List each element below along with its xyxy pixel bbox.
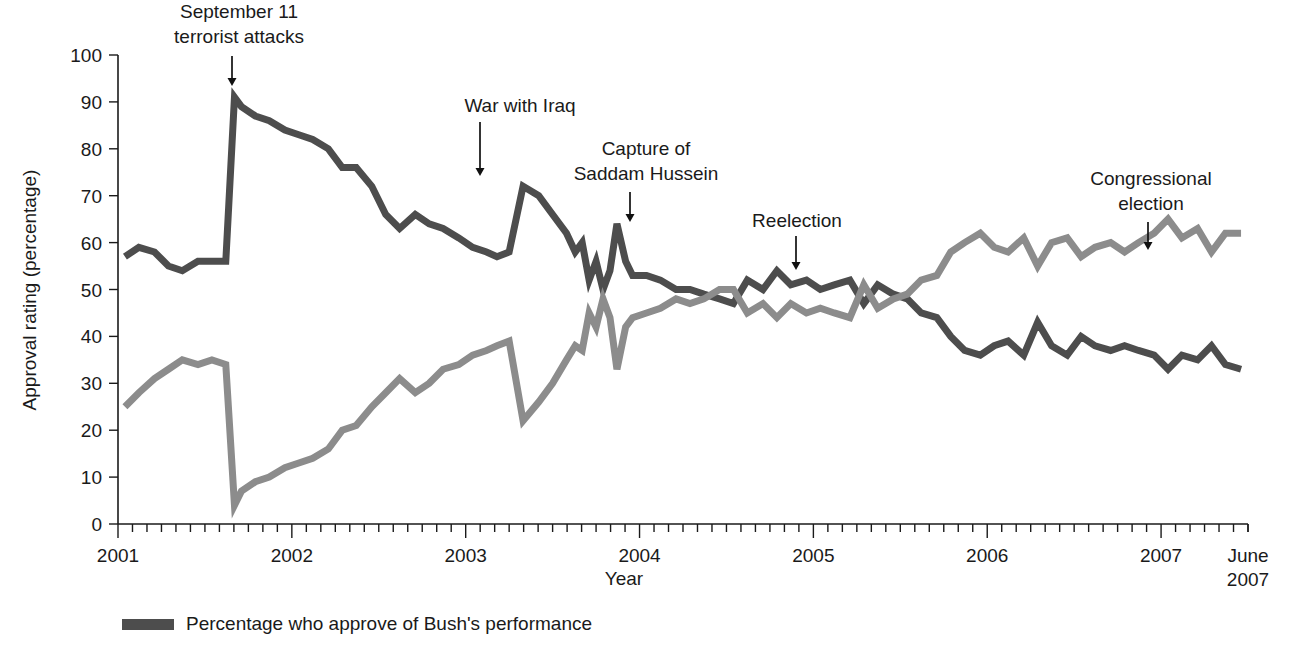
y-axis-tick-label: 70 bbox=[81, 186, 102, 207]
x-axis-end-label-line2: 2007 bbox=[1227, 569, 1269, 590]
y-axis-tick-label: 90 bbox=[81, 92, 102, 113]
legend-label-approve: Percentage who approve of Bush's perform… bbox=[186, 613, 592, 634]
x-axis-tick-label: 2001 bbox=[97, 545, 139, 566]
y-axis-title: Approval rating (percentage) bbox=[19, 170, 40, 411]
x-axis-tick-label: 2005 bbox=[792, 545, 834, 566]
annotation-label: election bbox=[1118, 193, 1184, 214]
annotation-label: terrorist attacks bbox=[174, 26, 304, 47]
y-axis-tick-label: 20 bbox=[81, 420, 102, 441]
x-axis-tick-label: 2007 bbox=[1140, 545, 1182, 566]
y-axis-tick-label: 50 bbox=[81, 280, 102, 301]
x-axis-tick-label: 2003 bbox=[445, 545, 487, 566]
y-axis-tick-label: 40 bbox=[81, 326, 102, 347]
x-axis-tick-label: 2006 bbox=[966, 545, 1008, 566]
bush-approval-chart: 0102030405060708090100 20012002200320042… bbox=[0, 0, 1299, 658]
y-axis-tick-label: 100 bbox=[70, 45, 102, 66]
x-axis-title: Year bbox=[605, 568, 644, 589]
x-axis-end-label-line1: June bbox=[1227, 545, 1268, 566]
y-axis-tick-label: 60 bbox=[81, 233, 102, 254]
y-axis-tick-label: 80 bbox=[81, 139, 102, 160]
legend: Percentage who approve of Bush's perform… bbox=[122, 613, 592, 634]
annotation-label: War with Iraq bbox=[464, 95, 575, 116]
y-axis-tick-label: 10 bbox=[81, 467, 102, 488]
annotation-label: Reelection bbox=[752, 210, 842, 231]
y-axis-tick-label: 0 bbox=[91, 514, 102, 535]
annotation-label: Saddam Hussein bbox=[574, 163, 719, 184]
x-axis-tick-label: 2004 bbox=[618, 545, 661, 566]
x-axis-tick-label: 2002 bbox=[271, 545, 313, 566]
annotation-label: Capture of bbox=[602, 138, 691, 159]
legend-swatch-approve bbox=[122, 619, 174, 630]
annotation-label: September 11 bbox=[180, 1, 298, 22]
chart-canvas: 0102030405060708090100 20012002200320042… bbox=[0, 0, 1299, 658]
annotation-label: Congressional bbox=[1090, 168, 1211, 189]
y-axis-tick-label: 30 bbox=[81, 373, 102, 394]
